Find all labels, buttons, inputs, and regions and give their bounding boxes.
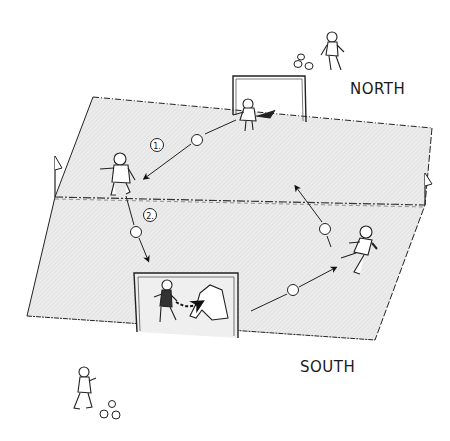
north-label: NORTH [350, 80, 405, 98]
step-2-badge: 2. [144, 209, 157, 222]
step-1-badge: 1. [151, 139, 164, 152]
north-server-player [321, 32, 344, 70]
south-server-player [74, 367, 96, 409]
svg-text:1.: 1. [153, 142, 161, 151]
south-ball-pile [100, 401, 120, 420]
svg-text:2.: 2. [146, 212, 154, 221]
north-ball-pile [294, 54, 313, 70]
diagram-canvas: 1. 2. [0, 0, 450, 441]
south-label: SOUTH [300, 358, 355, 376]
drill-diagram: 1. 2. NORTH SOUTH [0, 0, 450, 441]
